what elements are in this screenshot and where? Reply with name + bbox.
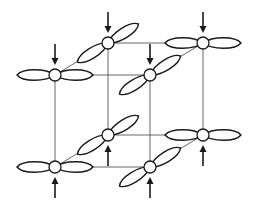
atom-nucleus-icon bbox=[49, 69, 61, 81]
orbital-lattice-diagram bbox=[0, 0, 255, 210]
atom-nucleus-icon bbox=[102, 37, 114, 49]
spin-down-arrow-icon bbox=[200, 12, 207, 33]
spin-down-arrow-icon bbox=[105, 12, 112, 33]
spin-up-arrow-icon bbox=[105, 145, 112, 166]
atom-nucleus-icon bbox=[49, 161, 61, 173]
lattice-sites bbox=[17, 12, 241, 198]
atom-nucleus-icon bbox=[197, 37, 209, 49]
lattice-site-bottom-front-left bbox=[17, 161, 93, 198]
lattice-canvas bbox=[0, 0, 255, 210]
atom-nucleus-icon bbox=[102, 129, 114, 141]
spin-down-arrow-icon bbox=[147, 44, 154, 65]
atom-nucleus-icon bbox=[144, 161, 156, 173]
spin-up-arrow-icon bbox=[200, 145, 207, 166]
atom-nucleus-icon bbox=[144, 69, 156, 81]
spin-up-arrow-icon bbox=[52, 177, 59, 198]
spin-down-arrow-icon bbox=[52, 44, 59, 65]
lattice-site-top-back-right bbox=[165, 12, 241, 49]
atom-nucleus-icon bbox=[197, 129, 209, 141]
spin-up-arrow-icon bbox=[147, 177, 154, 198]
